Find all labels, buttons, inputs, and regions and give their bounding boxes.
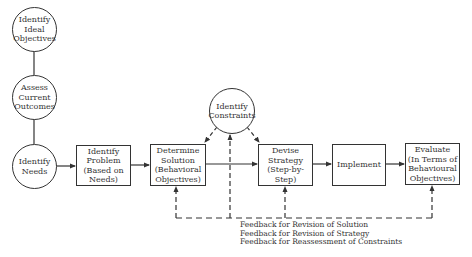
- node-label: Evaluate (In Terms of Behavioural Object…: [408, 145, 457, 183]
- node-label: Identify Constraints: [208, 102, 255, 121]
- node-label: Determine Solution (Behavioral Objective…: [155, 146, 202, 184]
- node-label: Identify Problem (Based on Needs): [83, 147, 123, 185]
- node-label: Identify Ideal Objectives: [13, 15, 56, 44]
- node-label: Implement: [337, 160, 381, 170]
- node-label: Identify Needs: [19, 157, 50, 176]
- node-identify-needs: Identify Needs: [12, 144, 57, 189]
- node-identify-problem: Identify Problem (Based on Needs): [76, 145, 131, 186]
- node-identify-ideal-objectives: Identify Ideal Objectives: [12, 7, 57, 52]
- node-label: Assess Current Outcomes: [14, 83, 55, 112]
- feedback-caption: Feedback for Revision of Solution Feedba…: [240, 221, 402, 247]
- node-assess-current-outcomes: Assess Current Outcomes: [12, 75, 57, 120]
- node-identify-constraints: Identify Constraints: [209, 88, 255, 134]
- node-determine-solution: Determine Solution (Behavioral Objective…: [150, 144, 206, 186]
- edge-constraints-solution: [205, 127, 217, 142]
- edge-constraints-strategy: [247, 127, 259, 142]
- node-implement: Implement: [332, 144, 386, 186]
- node-devise-strategy: Devise Strategy (Step-by-Step): [258, 144, 313, 186]
- node-evaluate: Evaluate (In Terms of Behavioural Object…: [405, 143, 460, 185]
- flowchart-diagram: Identify Ideal Objectives Assess Current…: [0, 0, 472, 257]
- node-label: Devise Strategy (Step-by-Step): [259, 146, 312, 184]
